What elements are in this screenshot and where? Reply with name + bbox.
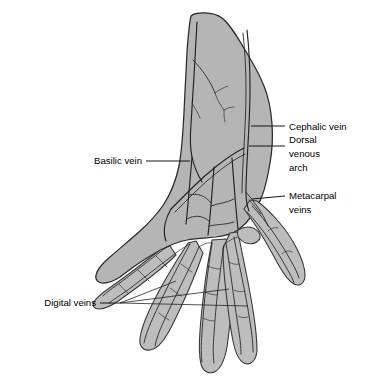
label-dorsal-venous-arch-line2: venous xyxy=(289,148,320,159)
anatomical-illustration-svg: Cephalic vein Dorsal venous arch Metacar… xyxy=(0,0,380,379)
label-metacarpal-veins-line1: Metacarpal xyxy=(289,190,336,201)
label-cephalic-vein: Cephalic vein xyxy=(289,121,347,132)
hand-vein-diagram: Cephalic vein Dorsal venous arch Metacar… xyxy=(0,0,380,379)
label-digital-veins: Digital veins xyxy=(44,297,96,308)
label-dorsal-venous-arch-line3: arch xyxy=(289,162,308,173)
label-basilic-vein: Basilic vein xyxy=(94,155,142,166)
label-metacarpal-veins-line2: veins xyxy=(289,204,312,215)
label-dorsal-venous-arch-line1: Dorsal xyxy=(289,134,317,145)
